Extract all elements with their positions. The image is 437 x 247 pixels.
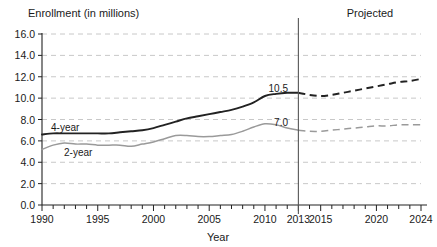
x-axis-tick-label: 2013 [287,213,311,225]
y-axis-tick-label: 6.0 [20,135,35,147]
x-axis-tick-label: 1990 [30,213,54,225]
y-axis-tick-label: 4.0 [20,156,35,168]
x-axis-tick-label: 2000 [142,213,166,225]
value-label-2year: 7.0 [274,117,288,128]
chart-title: Enrollment (in millions) [28,7,139,19]
x-axis-tick-label: 2015 [309,213,333,225]
series-label-4year: 4-year [51,122,80,133]
y-axis-tick-label: 14.0 [15,49,36,61]
y-axis-tick-label: 0.0 [20,199,35,211]
x-axis-tick-label: 1995 [86,213,110,225]
x-axis-tick-label: 2020 [365,213,389,225]
y-axis-tick-label: 16.0 [15,28,36,40]
projected-label: Projected [347,7,393,19]
x-axis-tick-label: 2010 [253,213,277,225]
y-axis-tick-label: 2.0 [20,178,35,190]
x-axis-label: Year [207,231,230,243]
value-label-4year: 10.5 [269,83,289,94]
x-axis-tick-label: 2024 [409,213,433,225]
enrollment-line-chart: 0.02.04.06.08.010.012.014.016.0 19901995… [0,0,437,247]
series-label-2year: 2-year [64,147,93,158]
x-axis-tick-label: 2005 [198,213,222,225]
y-axis-tick-label: 8.0 [20,114,35,126]
y-axis-tick-label: 12.0 [15,71,36,83]
y-axis-tick-label: 10.0 [15,92,36,104]
chart-canvas: 0.02.04.06.08.010.012.014.016.0 19901995… [0,0,437,247]
